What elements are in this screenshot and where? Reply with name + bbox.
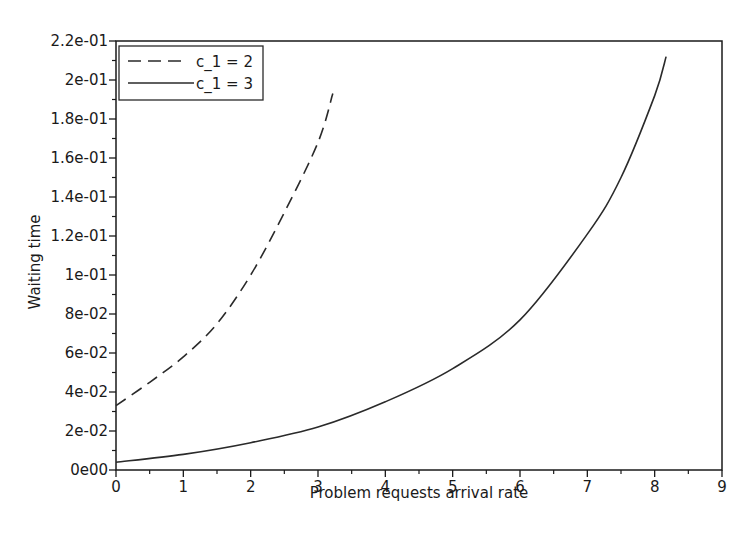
y-tick-label: 1e-01 [65, 266, 108, 284]
line-chart: 0e002e-024e-026e-028e-021e-011.2e-011.4e… [0, 0, 746, 547]
legend-label-series-1: c_1 = 2 [196, 53, 253, 72]
x-tick-label: 8 [650, 478, 660, 496]
y-tick-label: 8e-02 [65, 305, 108, 323]
x-tick-label: 7 [583, 478, 593, 496]
x-axis-label: Problem requests arrival rate [310, 484, 529, 502]
y-tick-label: 2.2e-01 [50, 32, 108, 50]
y-tick-label: 0e00 [70, 461, 108, 479]
x-tick-label: 9 [717, 478, 727, 496]
y-tick-label: 1.2e-01 [50, 227, 108, 245]
x-tick-label: 1 [179, 478, 189, 496]
y-axis-label: Waiting time [26, 215, 44, 310]
y-tick-label: 6e-02 [65, 344, 108, 362]
y-tick-label: 1.8e-01 [50, 110, 108, 128]
chart-background [0, 0, 746, 547]
y-tick-label: 2e-01 [65, 71, 108, 89]
legend-label-series-2: c_1 = 3 [196, 75, 253, 94]
x-tick-label: 2 [246, 478, 256, 496]
x-tick-label: 0 [111, 478, 121, 496]
y-tick-label: 1.6e-01 [50, 149, 108, 167]
legend: c_1 = 2 c_1 = 3 [119, 46, 263, 100]
y-tick-label: 2e-02 [65, 422, 108, 440]
y-tick-label: 1.4e-01 [50, 188, 108, 206]
y-tick-label: 4e-02 [65, 383, 108, 401]
